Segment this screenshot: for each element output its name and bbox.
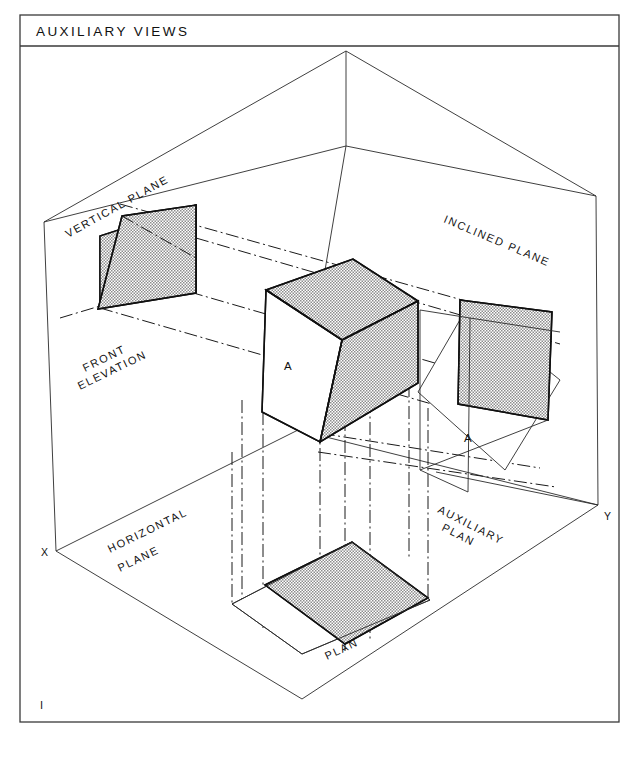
- vertical-plane-shape: [98, 205, 196, 309]
- front-elevation-solid: [262, 259, 418, 442]
- sheet-title: AUXILIARY VIEWS: [36, 24, 189, 39]
- face-label-auxiliary-plan: A: [464, 432, 472, 444]
- auxiliary-plan-shape: [418, 300, 560, 492]
- corner-label-x: X: [41, 546, 48, 558]
- plan-shape: [232, 542, 430, 654]
- technical-drawing: AUXILIARY VIEWS VERTICAL PLANE INCLINED …: [0, 0, 638, 769]
- label-inclined-plane: INCLINED PLANE: [442, 213, 552, 269]
- corner-label-y: Y: [604, 510, 611, 522]
- sheet-mark: I: [40, 699, 43, 711]
- face-label-front-elevation: A: [284, 360, 292, 372]
- drawing-sheet: AUXILIARY VIEWS VERTICAL PLANE INCLINED …: [0, 0, 638, 769]
